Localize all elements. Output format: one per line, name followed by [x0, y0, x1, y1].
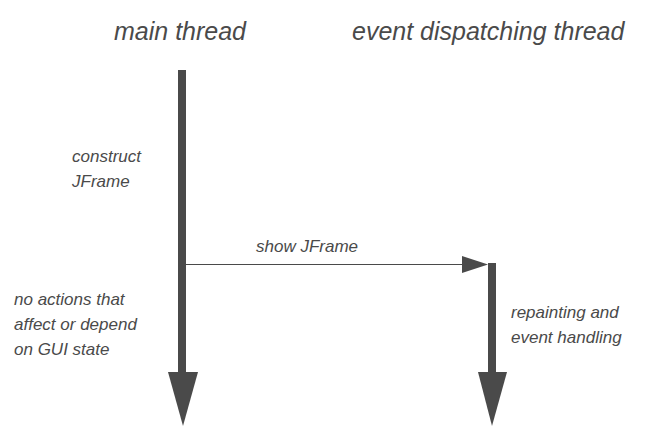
note-construct-jframe: construct JFrame: [72, 144, 141, 194]
message-label-show-jframe: show JFrame: [256, 234, 358, 259]
main-thread-lifeline-arrow: [168, 70, 198, 426]
diagram-arrows: [0, 0, 665, 446]
note-no-gui-actions: no actions that affect or depend on GUI …: [14, 287, 137, 362]
note-repainting-event-handling: repainting and event handling: [511, 300, 622, 350]
edt-lifeline-arrow: [478, 263, 507, 426]
